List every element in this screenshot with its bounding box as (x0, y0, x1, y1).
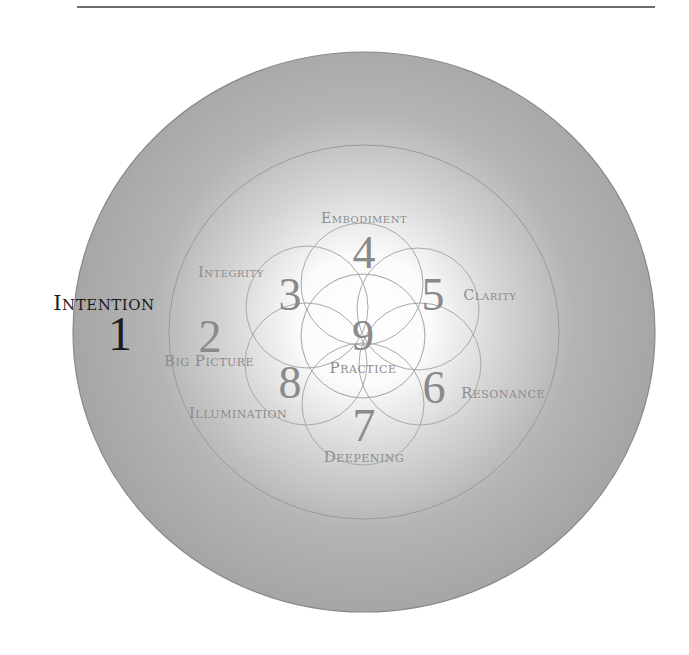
stage-4-number: 4 (353, 227, 376, 278)
nine-stage-circle-diagram: Intention 1 2 Big Picture Integrity 3 Em… (0, 0, 689, 655)
stage-6-label: Resonance (461, 384, 545, 402)
stage-2-label: Big Picture (164, 352, 254, 370)
stage-8-label: Illumination (189, 404, 287, 422)
stage-1-label: Intention (53, 291, 154, 315)
stage-5-label: Clarity (464, 287, 517, 303)
stage-4-label: Embodiment (321, 210, 407, 226)
stage-3-label: Integrity (198, 264, 264, 280)
stage-5-number: 5 (422, 269, 445, 320)
stage-1-number: 1 (108, 307, 132, 360)
stage-6-number: 6 (423, 362, 446, 413)
stage-9-label: Practice (330, 359, 397, 377)
stage-3-number: 3 (279, 269, 302, 320)
stage-7-number: 7 (353, 400, 376, 451)
stage-8-number: 8 (279, 357, 302, 408)
stage-9-number: 9 (352, 311, 374, 360)
stage-7-label: Deepening (324, 448, 404, 466)
